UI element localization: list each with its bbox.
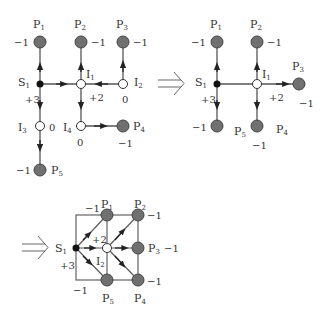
transform-arrow-icon [22,236,48,259]
svg-text:−1: −1 [91,37,106,48]
svg-text:P3: P3 [148,242,160,256]
svg-text:0: 0 [77,137,83,148]
sink-node-p3 [117,36,129,48]
svg-text:P3: P3 [292,60,304,74]
sink-node-p4 [117,120,129,132]
svg-text:−1: −1 [164,243,179,254]
svg-text:−1: −1 [147,276,162,287]
svg-text:−1: −1 [252,140,267,151]
sink-node-p2 [251,36,263,48]
source-node-s1 [214,81,221,88]
sink-node-p2 [75,36,87,48]
diagram-canvas: P1 P2 P3 −1 −1 −1 S1 +3 I1 +2 I2 0 I3 0 … [0,0,324,318]
svg-text:0: 0 [122,94,128,105]
transform-arrow-icon [158,72,184,95]
svg-text:P5: P5 [102,292,114,306]
svg-text:P3: P3 [116,18,128,32]
sink-node-p1 [34,36,46,48]
svg-text:+3: +3 [25,94,40,105]
sink-node-p4 [132,274,144,286]
sink-node-p5 [34,164,46,176]
svg-text:I1: I1 [86,68,95,82]
svg-text:0: 0 [49,122,55,133]
svg-text:P4: P4 [133,120,145,134]
sink-node-p3 [132,242,144,254]
svg-text:−1: −1 [73,285,88,296]
svg-text:P2: P2 [250,18,262,32]
svg-text:−1: −1 [133,37,148,48]
svg-text:P1: P1 [101,198,113,212]
sink-node-p4 [251,120,263,132]
svg-text:P5: P5 [234,125,246,139]
svg-text:−1: −1 [191,37,206,48]
svg-text:I1: I1 [262,68,271,82]
intermediate-node-i2 [119,80,128,89]
svg-text:+3: +3 [201,94,216,105]
svg-text:I2: I2 [96,255,105,269]
intermediate-node-i1 [253,80,262,89]
svg-text:−1: −1 [299,98,314,109]
source-node-s1 [73,245,80,252]
svg-text:P2: P2 [74,18,86,32]
svg-text:+2: +2 [92,234,107,245]
svg-text:+2: +2 [89,92,104,103]
sink-node-p5 [211,120,223,132]
sink-node-p1 [211,36,223,48]
svg-text:P2: P2 [134,198,146,212]
svg-text:+3: +3 [60,260,75,271]
svg-text:S1: S1 [195,76,207,90]
svg-text:P5: P5 [51,164,63,178]
sink-node-p3 [293,78,305,90]
svg-text:P4: P4 [276,123,288,137]
svg-text:−1: −1 [14,37,29,48]
source-node-s1 [37,81,44,88]
sink-node-p5 [101,274,113,286]
grid-labels: P1 P2 −1 −1 S1 +3 +2 I2 P3 −1 −1 −1 P5 P… [55,198,179,306]
svg-text:−1: −1 [192,122,207,133]
svg-text:−1: −1 [267,37,282,48]
svg-text:P1: P1 [33,18,45,32]
svg-text:S1: S1 [55,242,67,256]
svg-text:I2: I2 [134,76,143,90]
svg-text:I3: I3 [18,121,27,135]
intermediate-node-i1 [77,80,86,89]
svg-text:P1: P1 [210,18,222,32]
svg-text:S1: S1 [18,76,30,90]
svg-text:+2: +2 [269,92,284,103]
svg-text:I4: I4 [63,121,72,135]
svg-text:P4: P4 [134,292,146,306]
svg-text:−1: −1 [147,210,162,221]
svg-text:−1: −1 [118,138,133,149]
intermediate-node-i3 [36,122,45,131]
svg-text:−1: −1 [16,165,31,176]
svg-text:−1: −1 [85,203,100,214]
intermediate-node-i4 [77,122,86,131]
